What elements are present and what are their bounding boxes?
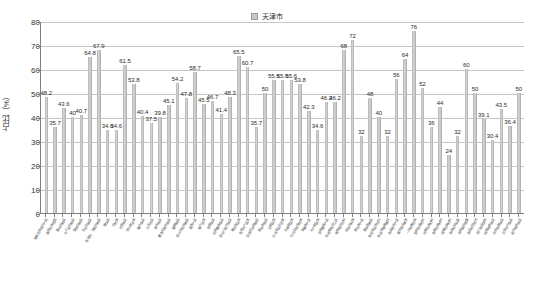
bar[interactable]: 45.5 [202,104,206,213]
bar-slot: 53.8 [296,22,305,213]
x-tick-mark [387,214,388,217]
bar-value-label: 72 [349,33,356,40]
bar[interactable]: 46.2 [325,102,329,213]
bar-value-label: 60 [463,62,470,69]
bar[interactable]: 53.8 [132,84,136,213]
x-tick-mark [352,214,353,217]
x-tick-mark [360,214,361,217]
bar[interactable]: 40 [377,117,381,213]
bar-slot: 40 [375,22,384,213]
bar[interactable]: 32 [456,136,460,213]
x-tick-mark [255,214,256,217]
bar[interactable]: 60.7 [246,67,250,213]
bar[interactable]: 34.6 [316,130,320,213]
bar-slot: 47.8 [182,22,191,213]
bar[interactable]: 40 [71,117,75,213]
bar[interactable]: 40.7 [80,115,84,213]
x-tick-mark [474,214,475,217]
bar[interactable]: 48 [368,98,372,213]
bar-value-label: 50 [262,86,269,93]
bar[interactable]: 43.6 [62,108,66,213]
bar[interactable]: 42.3 [307,111,311,213]
x-tick-mark [518,214,519,217]
bar[interactable]: 39.8 [158,117,162,213]
bar[interactable]: 32 [386,136,390,213]
bar-slot: 35.7 [252,22,261,213]
bar[interactable]: 36 [430,127,434,213]
bar[interactable]: 61.5 [123,65,127,213]
x-tick-mark [238,214,239,217]
bar[interactable]: 39.1 [482,119,486,213]
bar[interactable]: 64.8 [88,57,92,213]
bar[interactable]: 43.5 [500,109,504,213]
bar[interactable]: 65.5 [237,56,241,213]
bar[interactable]: 36.4 [508,126,512,213]
bar[interactable]: 24 [447,155,451,213]
x-tick-mark [396,214,397,217]
bar[interactable]: 54.2 [176,83,180,213]
x-tick-mark [448,214,449,217]
bar[interactable]: 47.8 [185,98,189,213]
bar-slot: 72 [348,22,357,213]
bar[interactable]: 60 [465,69,469,213]
bar[interactable]: 48.3 [228,97,232,213]
bar-slot: 58.7 [191,22,200,213]
bar[interactable]: 32 [360,136,364,213]
bar[interactable]: 35.7 [255,127,259,213]
bar-value-label: 40 [376,110,383,117]
x-tick-mark [378,214,379,217]
bar[interactable]: 44 [438,107,442,213]
x-tick-mark [106,214,107,217]
bar-value-label: 48 [367,91,374,98]
x-tick-mark [54,214,55,217]
x-tick-mark [492,214,493,217]
x-tick-mark [168,214,169,217]
x-tick-mark [203,214,204,217]
bar-slot: 40 [68,22,77,213]
bar[interactable]: 64 [403,59,407,213]
bar-slot: 52 [418,22,427,213]
bar-slot: 45.5 [200,22,209,213]
x-tick-mark [194,214,195,217]
bar[interactable]: 67.9 [97,50,101,213]
bar[interactable]: 68 [342,50,346,213]
bar-slot: 61.5 [121,22,130,213]
bar[interactable]: 30.4 [491,140,495,213]
bar[interactable]: 37.5 [150,123,154,213]
bar[interactable]: 52 [421,88,425,213]
bar[interactable]: 34.6 [106,130,110,213]
x-tick-mark [150,214,151,217]
bar-slot: 46.7 [208,22,217,213]
bar-slot: 65.5 [235,22,244,213]
bar[interactable]: 50 [517,93,521,213]
bar-slot: 45.1 [165,22,174,213]
bar-value-label: 32 [384,129,391,136]
x-tick-mark [282,214,283,217]
bar[interactable]: 72 [351,40,355,213]
bar[interactable]: 46.2 [333,102,337,213]
bar[interactable]: 58.7 [193,72,197,213]
bar[interactable]: 46.7 [211,101,215,213]
bar[interactable]: 48.2 [45,97,49,213]
x-tick-mark [369,214,370,217]
bar[interactable]: 55.6 [272,80,276,213]
x-tick-mark [483,214,484,217]
x-tick-mark [229,214,230,217]
bar[interactable]: 56 [395,79,399,213]
bar[interactable]: 41.4 [220,114,224,213]
bar[interactable]: 55.6 [281,80,285,213]
bar[interactable]: 50 [263,93,267,213]
x-tick-mark [176,214,177,217]
bar[interactable]: 76 [412,31,416,213]
bar[interactable]: 45.1 [167,105,171,213]
bar-slot: 36.4 [506,22,515,213]
x-tick-mark [325,214,326,217]
bar[interactable]: 40.4 [141,116,145,213]
bar[interactable]: 50 [473,93,477,213]
x-tick-mark [413,214,414,217]
bar-value-label: 36 [428,120,435,127]
bar[interactable]: 55.6 [290,80,294,213]
bar[interactable]: 53.8 [298,84,302,213]
bar[interactable]: 34.6 [115,130,119,213]
bar[interactable]: 35.7 [53,127,57,213]
